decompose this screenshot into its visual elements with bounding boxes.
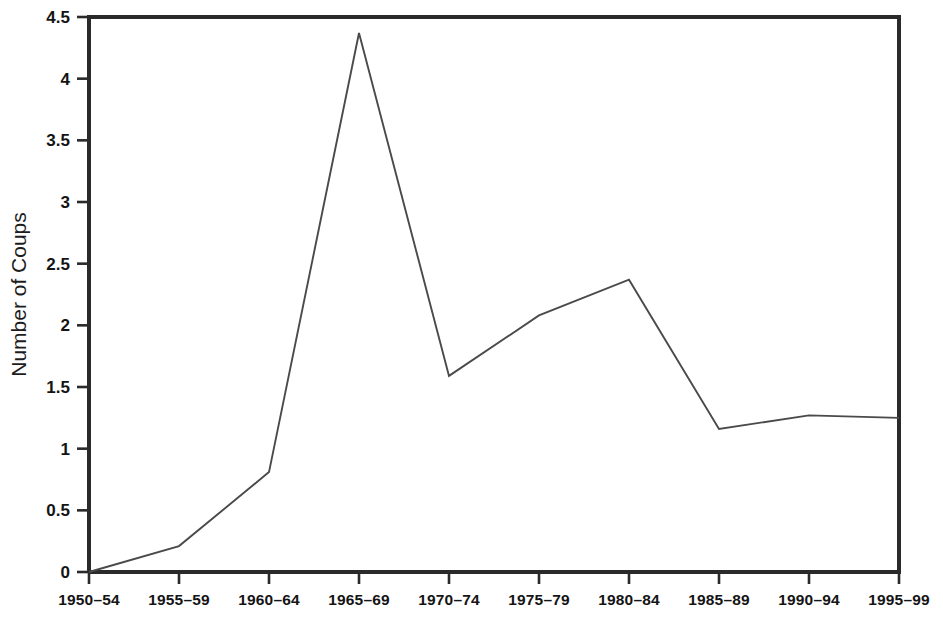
chart-figure: Number of Coups 00.511.522.533.544.5 195…	[0, 0, 943, 633]
x-tick-label: 1950–54	[58, 591, 120, 608]
y-tick-label: 4	[61, 70, 71, 89]
y-tick-label: 1	[61, 440, 70, 459]
y-axis-label: Number of Coups	[7, 212, 30, 377]
x-tick-label: 1960–64	[238, 591, 300, 608]
x-tick-label: 1995–99	[868, 591, 930, 608]
y-tick-label: 2.5	[46, 255, 70, 274]
x-tick-label: 1990–94	[778, 591, 840, 608]
x-tick-label: 1955–59	[148, 591, 210, 608]
y-axis-title: Number of Coups	[7, 212, 30, 377]
x-tick-label: 1965–69	[328, 591, 390, 608]
y-tick-label: 3.5	[46, 131, 70, 150]
y-tick-label: 3	[61, 193, 70, 212]
x-tick-label: 1970–74	[418, 591, 480, 608]
y-tick-label: 2	[61, 316, 70, 335]
y-tick-label: 0	[61, 563, 70, 582]
y-tick-label: 0.5	[46, 501, 70, 520]
x-tick-label: 1975–79	[508, 591, 570, 608]
x-tick-label: 1985–89	[688, 591, 750, 608]
y-tick-label: 1.5	[46, 378, 70, 397]
chart-background	[0, 0, 943, 633]
y-tick-label: 4.5	[46, 8, 70, 27]
x-tick-label: 1980–84	[598, 591, 660, 608]
line-chart: Number of Coups 00.511.522.533.544.5 195…	[0, 0, 943, 633]
